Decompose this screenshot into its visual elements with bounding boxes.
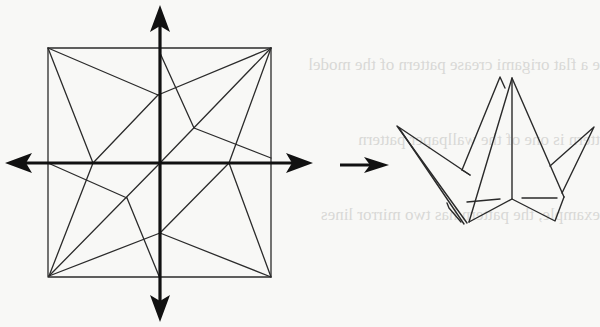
transition-arrow bbox=[340, 157, 389, 173]
crease-pattern-diagram bbox=[5, 5, 313, 322]
textbook-page: e a flat origami crease pattern of the m… bbox=[0, 0, 600, 327]
origami-crane bbox=[397, 77, 594, 224]
figure bbox=[0, 0, 600, 327]
